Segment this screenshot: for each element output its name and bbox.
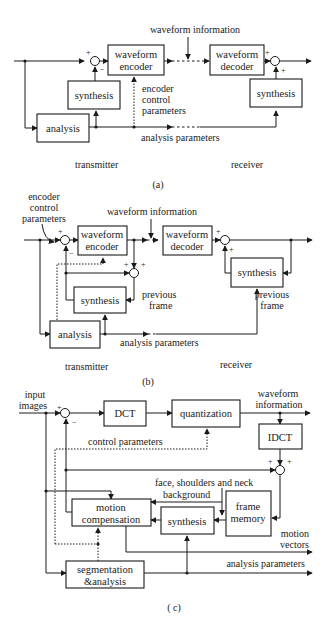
control-parameters-label: control parameters bbox=[88, 436, 163, 447]
caption-b: (b) bbox=[142, 376, 154, 388]
minus-sign: − bbox=[100, 65, 105, 74]
previous-frame-label: previous bbox=[255, 289, 290, 300]
block-label: analysis bbox=[58, 329, 92, 340]
block-label: waveform bbox=[81, 229, 124, 240]
line-to-analysis bbox=[40, 240, 50, 334]
block-label: synthesis bbox=[238, 267, 277, 278]
input-images-label: images bbox=[19, 400, 47, 411]
plus-sign: + bbox=[216, 227, 221, 236]
line-to-analysis bbox=[25, 61, 37, 128]
waveform-information-label: waveform information bbox=[107, 206, 197, 217]
plus-sign: + bbox=[281, 66, 286, 75]
analysis-parameters-label: analysis parameters bbox=[141, 132, 220, 143]
waveform-information-label: information bbox=[255, 399, 302, 410]
block-label: encoder bbox=[85, 241, 119, 252]
receiver-label: receiver bbox=[220, 359, 253, 370]
previous-frame-line bbox=[283, 240, 291, 273]
motion-vectors-label: vectors bbox=[280, 539, 309, 550]
plus-sign: + bbox=[229, 245, 234, 254]
block-label: synthesis bbox=[75, 90, 114, 101]
block-label: quantization bbox=[180, 408, 233, 419]
block-label: IDCT bbox=[268, 432, 293, 443]
summing-node bbox=[221, 236, 230, 245]
plus-sign: + bbox=[58, 227, 63, 236]
encoder-control-parameters-label: encoder bbox=[28, 191, 60, 202]
previous-frame-label: frame bbox=[260, 300, 284, 311]
caption-a: (a) bbox=[152, 179, 163, 191]
block-label: waveform bbox=[166, 229, 209, 240]
line bbox=[200, 111, 276, 127]
block-label: analysis bbox=[46, 123, 80, 134]
block-label: &analysis bbox=[84, 576, 126, 587]
block-label: synthesis bbox=[81, 295, 120, 306]
summing-node bbox=[276, 466, 285, 475]
encoder-control-parameters-label: parameters bbox=[142, 105, 186, 116]
line bbox=[46, 491, 111, 499]
feedback-line bbox=[66, 419, 72, 512]
encoder-control-parameters-label: parameters bbox=[22, 213, 66, 224]
block-label: frame bbox=[236, 501, 261, 512]
block-label: waveform bbox=[216, 49, 259, 60]
block-label: decoder bbox=[220, 61, 254, 72]
block-label: synthesis bbox=[257, 88, 296, 99]
face-shoulders-neck-label: face, shoulders and neck bbox=[155, 477, 253, 488]
summing-node bbox=[271, 57, 280, 66]
summing-node bbox=[61, 409, 70, 418]
block-label: memory bbox=[231, 513, 267, 524]
plus-sign: + bbox=[86, 48, 91, 57]
transmitter-label: transmitter bbox=[65, 361, 109, 372]
waveform-information-label: waveform information bbox=[150, 24, 240, 35]
diagram-c: input images + − DCT quantization wavefo… bbox=[19, 388, 312, 614]
block-label: decoder bbox=[170, 241, 204, 252]
encoder-control-pointer bbox=[42, 224, 54, 242]
background-label: background bbox=[163, 489, 210, 500]
caption-c: ( c) bbox=[167, 602, 181, 614]
block-label: motion bbox=[96, 502, 127, 513]
analysis-parameters-label: analysis parameters bbox=[226, 558, 305, 569]
diagram-b: encoder control parameters waveform info… bbox=[22, 191, 312, 388]
minus-sign: − bbox=[69, 249, 74, 258]
block-label: waveform bbox=[115, 49, 158, 60]
plus-sign: + bbox=[265, 48, 270, 57]
encoder-control-parameters-label: control bbox=[142, 94, 171, 105]
block-label: encoder bbox=[119, 61, 153, 72]
plus-sign: + bbox=[141, 260, 146, 269]
previous-frame-label: frame bbox=[149, 300, 173, 311]
minus-sign: − bbox=[72, 418, 77, 427]
encoder-control-parameters-label: control bbox=[30, 202, 59, 213]
summing-node bbox=[91, 57, 100, 66]
plus-sign: + bbox=[287, 457, 292, 466]
summing-node bbox=[61, 236, 70, 245]
block-label: compensation bbox=[82, 514, 141, 525]
previous-frame-label: previous bbox=[142, 289, 177, 300]
block-label: segmentation bbox=[77, 564, 134, 575]
coding-schemes-diagram: + − waveform encoder waveform informatio… bbox=[0, 0, 330, 638]
receiver-label: receiver bbox=[231, 159, 264, 170]
plus-sign: + bbox=[268, 457, 273, 466]
line bbox=[272, 475, 280, 518]
diagram-a: + − waveform encoder waveform informatio… bbox=[14, 24, 311, 191]
block-label: DCT bbox=[115, 408, 137, 419]
encoder-control-parameters-label: encoder bbox=[142, 83, 174, 94]
input-images-label: input bbox=[25, 389, 46, 400]
transmitter-label: transmitter bbox=[75, 159, 119, 170]
line-to-segmentation bbox=[46, 413, 66, 573]
summing-node bbox=[130, 269, 139, 278]
motion-vectors-label: motion bbox=[281, 528, 309, 539]
block-label: synthesis bbox=[168, 516, 207, 527]
analysis-parameters-label: analysis parameters bbox=[120, 337, 199, 348]
waveform-information-label: waveform bbox=[258, 388, 299, 399]
plus-sign: + bbox=[124, 260, 129, 269]
previous-frame-line bbox=[126, 278, 134, 300]
